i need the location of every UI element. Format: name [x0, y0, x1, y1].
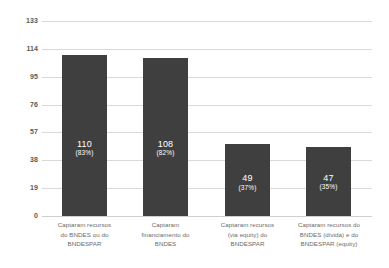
y-tick-label-95: 95 — [4, 73, 38, 80]
bar-2-value: 108 — [143, 139, 188, 149]
bar-1-value: 110 — [62, 139, 107, 149]
y-tick-label-19: 19 — [4, 184, 38, 191]
category-label-2-line-1: Captaram — [120, 220, 211, 230]
y-tick-label-0: 0 — [4, 212, 38, 219]
category-label-2: Captaram financiamento do BNDES — [120, 220, 211, 249]
bar-4[interactable]: 47 (35%) — [306, 147, 351, 216]
category-label-3-line-2: (via equity) do — [202, 230, 293, 240]
category-label-4-line-1: Captaram recursos do — [281, 220, 377, 230]
bar-4-value: 47 — [306, 173, 351, 183]
bar-1[interactable]: 110 (83%) — [62, 55, 107, 216]
category-label-2-line-3: BNDES — [120, 239, 211, 249]
gridline-114 — [42, 49, 372, 50]
category-label-1-line-1: Captaram recursos — [39, 220, 130, 230]
bar-2-percent: (82%) — [143, 149, 188, 156]
category-label-2-line-2: financiamento do — [120, 230, 211, 240]
bar-2[interactable]: 108 (82%) — [143, 58, 188, 216]
bar-2-label-group: 108 (82%) — [143, 139, 188, 157]
plot-area: 110 (83%) 108 (82%) 49 (37%) 47 (35%) — [42, 21, 372, 216]
bar-3-value: 49 — [225, 173, 270, 183]
bar-3-percent: (37%) — [225, 184, 270, 191]
y-tick-label-133: 133 — [4, 17, 38, 24]
y-tick-label-38: 38 — [4, 156, 38, 163]
bar-1-label-group: 110 (83%) — [62, 139, 107, 157]
category-label-3-line-1: Captaram recursos — [202, 220, 293, 230]
bar-chart: 133 114 95 76 57 38 19 0 110 (83%) 108 (… — [0, 0, 389, 268]
category-label-4-line-2: BNDES (dívida) e do — [281, 230, 377, 240]
category-label-4: Captaram recursos do BNDES (dívida) e do… — [281, 220, 377, 249]
y-tick-label-57: 57 — [4, 128, 38, 135]
category-label-1-line-3: BNDESPAR — [39, 239, 130, 249]
category-label-1: Captaram recursos do BNDES ou do BNDESPA… — [39, 220, 130, 249]
bar-1-percent: (83%) — [62, 149, 107, 156]
category-label-3-line-3: BNDESPAR — [202, 239, 293, 249]
bar-3-label-group: 49 (37%) — [225, 173, 270, 191]
y-tick-label-76: 76 — [4, 101, 38, 108]
y-tick-label-114: 114 — [4, 45, 38, 52]
bar-4-label-group: 47 (35%) — [306, 173, 351, 191]
gridline-133 — [42, 21, 372, 22]
gridline-baseline-0 — [42, 216, 372, 217]
category-label-4-line-3: BNDESPAR (equity) — [281, 239, 377, 249]
y-axis: 133 114 95 76 57 38 19 0 — [0, 21, 38, 216]
category-label-1-line-2: do BNDES ou do — [39, 230, 130, 240]
bar-4-percent: (35%) — [306, 183, 351, 190]
bar-3[interactable]: 49 (37%) — [225, 144, 270, 216]
category-label-3: Captaram recursos (via equity) do BNDESP… — [202, 220, 293, 249]
x-axis: Captaram recursos do BNDES ou do BNDESPA… — [42, 220, 372, 266]
